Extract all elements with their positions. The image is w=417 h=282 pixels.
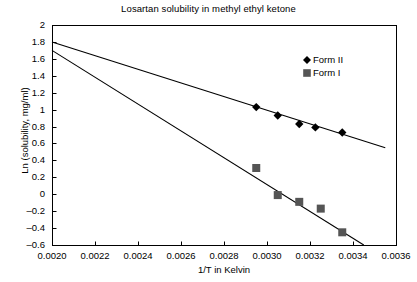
- legend-item-form-i-label: Form I: [313, 68, 340, 78]
- chart-figure: Losartan solubility in methyl ethyl keto…: [0, 0, 417, 282]
- x-tick-label: 0.0036: [367, 251, 417, 261]
- x-axis-tick-labels: 0.00200.00220.00240.00260.00280.00300.00…: [0, 0, 417, 282]
- legend-item-form-ii-label: Form II: [313, 55, 343, 65]
